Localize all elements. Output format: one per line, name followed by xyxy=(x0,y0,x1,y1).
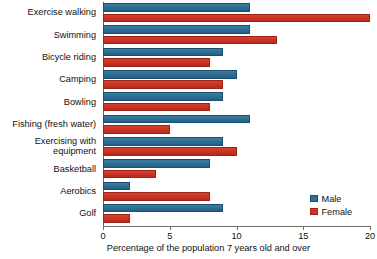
bar-group xyxy=(103,69,370,91)
bar-male xyxy=(103,115,250,124)
category-label: Fishing (fresh water) xyxy=(0,119,96,129)
legend-swatch-male-icon xyxy=(310,195,318,203)
bar-female xyxy=(103,14,370,23)
legend-label-male: Male xyxy=(322,194,342,204)
bar-female xyxy=(103,36,277,45)
bar-group xyxy=(103,24,370,46)
category-label: Basketball xyxy=(0,164,96,174)
bar-male xyxy=(103,182,130,191)
bar-male xyxy=(103,92,223,101)
x-tick-label: 10 xyxy=(231,231,241,241)
bar-male xyxy=(103,70,237,79)
x-tick-mark xyxy=(103,226,104,230)
bar-male xyxy=(103,48,223,57)
bar-chart: Exercise walkingSwimmingBicycle ridingCa… xyxy=(0,0,377,259)
plot-area xyxy=(103,2,370,225)
bar-female xyxy=(103,170,156,179)
x-tick-mark xyxy=(303,226,304,230)
category-label: Exercise walking xyxy=(0,7,96,17)
legend-swatch-female-icon xyxy=(310,208,318,216)
x-tick-label: 15 xyxy=(298,231,308,241)
bar-group xyxy=(103,91,370,113)
bar-female xyxy=(103,192,210,201)
bar-group xyxy=(103,158,370,180)
bar-female xyxy=(103,147,237,156)
x-axis-title-text: Percentage of the population 7 years old… xyxy=(67,243,310,253)
bar-female xyxy=(103,214,130,223)
bar-female xyxy=(103,125,170,134)
category-label: Golf xyxy=(0,208,96,218)
x-tick-mark xyxy=(370,226,371,230)
category-label: Swimming xyxy=(0,30,96,40)
bar-group xyxy=(103,2,370,24)
bar-male xyxy=(103,25,250,34)
chart-legend: Male Female xyxy=(310,193,352,219)
x-tick-label: 0 xyxy=(100,231,105,241)
category-label: Aerobics xyxy=(0,186,96,196)
category-label: Camping xyxy=(0,74,96,84)
bar-male xyxy=(103,204,223,213)
bar-female xyxy=(103,58,210,67)
x-axis-title: Percentage of the population 7 years old… xyxy=(0,243,377,253)
legend-item-female: Female xyxy=(310,206,352,217)
bar-female xyxy=(103,80,223,89)
legend-label-female: Female xyxy=(322,207,353,217)
x-tick-label: 20 xyxy=(365,231,375,241)
x-tick-label: 5 xyxy=(167,231,172,241)
bar-male xyxy=(103,137,223,146)
category-label: Bowling xyxy=(0,97,96,107)
category-label: Exercising with equipment xyxy=(0,136,96,157)
bar-male xyxy=(103,159,210,168)
bar-group xyxy=(103,47,370,69)
bar-group xyxy=(103,114,370,136)
bar-female xyxy=(103,103,210,112)
x-tick-mark xyxy=(170,226,171,230)
bar-group xyxy=(103,136,370,158)
bar-male xyxy=(103,3,250,12)
category-label: Bicycle riding xyxy=(0,52,96,62)
x-tick-mark xyxy=(237,226,238,230)
legend-item-male: Male xyxy=(310,193,352,204)
